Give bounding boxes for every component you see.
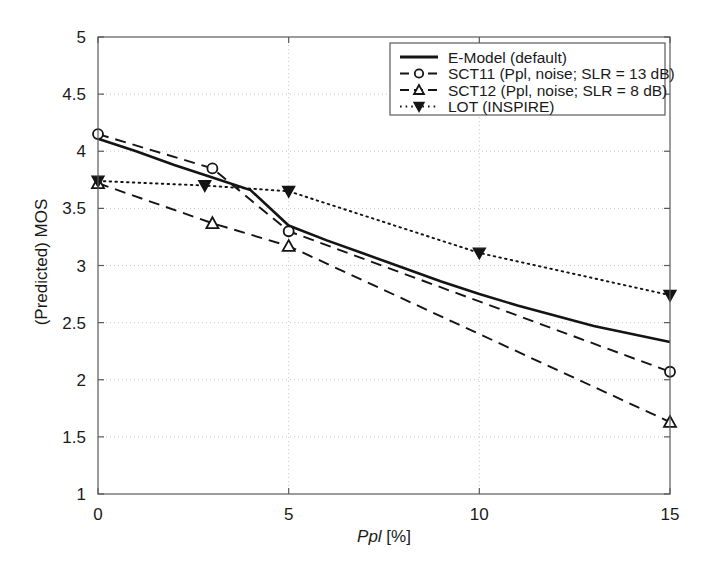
series-0 [98,139,670,342]
x-axis-title: Ppl [%] [284,527,484,547]
x-tick-label: 10 [470,505,489,524]
x-tick-label: 0 [93,505,102,524]
series-line [98,134,670,372]
y-tick-label: 4.5 [62,85,86,104]
y-tick-label: 2.5 [62,314,86,333]
y-tick-label: 1.5 [62,428,86,447]
legend-label: E-Model (default) [448,49,567,66]
legend-label: LOT (INSPIRE) [448,98,555,115]
series-line [98,183,670,422]
y-tick-label: 3.5 [62,199,86,218]
series-3 [92,176,676,301]
data-marker-circle [207,163,217,173]
y-tick-label: 5 [77,28,86,47]
y-tick-label: 4 [77,142,86,161]
x-tick-label: 15 [661,505,680,524]
y-tick-label: 1 [77,485,86,504]
data-series-layer [92,129,676,427]
y-tick-label: 2 [77,371,86,390]
data-marker-circle [284,226,294,236]
y-axis-title: (Predicted) MOS [32,157,52,367]
legend-marker-circle [415,69,423,77]
series-line [98,181,670,295]
chart-canvas: 11.522.533.544.55051015 E-Model (default… [0,0,714,566]
data-marker-triangle-up [283,240,295,251]
y-tick-label: 3 [77,257,86,276]
y-axis-title-text: (Predicted) MOS [32,199,51,326]
x-tick-label: 5 [284,505,293,524]
x-axis-title-rest: [%] [382,527,411,546]
legend-box[interactable]: E-Model (default)SCT11 (Ppl, noise; SLR … [390,43,675,115]
legend-label: SCT11 (Ppl, noise; SLR = 13 dB) [448,65,675,82]
series-line [98,139,670,342]
series-2 [92,177,676,427]
x-axis-title-italic: Ppl [357,527,382,546]
figure-root: 11.522.533.544.55051015 E-Model (default… [0,0,714,566]
legend-label: SCT12 (Ppl, noise; SLR = 8 dB) [448,82,667,99]
